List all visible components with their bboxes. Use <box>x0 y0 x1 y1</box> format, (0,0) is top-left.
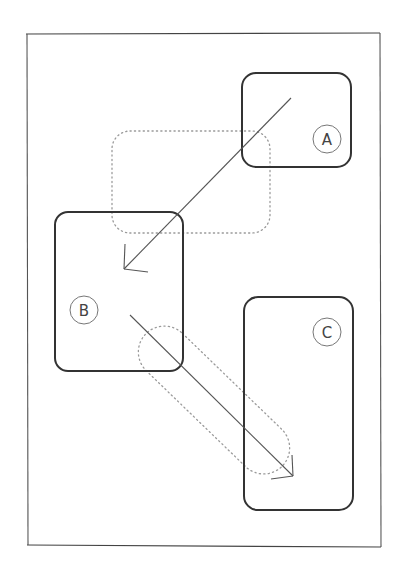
outer-frame <box>26 33 381 547</box>
arrowhead-icon <box>124 244 125 269</box>
arrow-a-to-b <box>124 98 291 272</box>
diagram-canvas: A B C <box>0 0 401 574</box>
label-a: A <box>322 131 333 149</box>
ghost-capsule <box>128 315 301 484</box>
box-b: B <box>55 212 183 371</box>
box-c: C <box>244 297 353 510</box>
label-b: B <box>79 302 89 320</box>
label-c: C <box>322 324 332 342</box>
arrow-b-to-c <box>130 315 293 479</box>
arrowhead-icon <box>292 455 293 476</box>
ghost-rect <box>112 131 270 233</box>
box-a: A <box>242 73 351 167</box>
